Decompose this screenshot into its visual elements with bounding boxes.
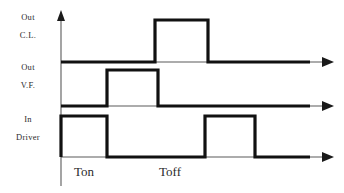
signal-traces xyxy=(61,20,310,157)
signal-label-in-driver-line2: Driver xyxy=(16,132,40,142)
signal-label-out-vf-line2: V.F. xyxy=(21,80,36,90)
time-label-ton: Ton xyxy=(74,164,95,179)
time-axis-arrow-icon-in-driver xyxy=(322,152,334,162)
signal-label-in-driver-line1: In xyxy=(24,114,32,124)
timing-diagram: Out C.L. Out V.F. In Driver Ton Toff xyxy=(0,0,344,193)
signal-trace-out-cl xyxy=(61,20,310,62)
signal-label-out-vf-line1: Out xyxy=(21,62,35,72)
signal-trace-in-driver xyxy=(61,116,310,157)
time-axis-arrow-icon-out-cl xyxy=(322,57,334,67)
signal-label-out-cl-line2: C.L. xyxy=(20,30,36,40)
signal-trace-out-vf xyxy=(61,70,310,106)
time-label-toff: Toff xyxy=(159,164,182,179)
time-axis-arrow-icon-out-vf xyxy=(322,101,334,111)
vertical-axis xyxy=(57,10,65,186)
timing-diagram-canvas: Out C.L. Out V.F. In Driver Ton Toff xyxy=(0,0,344,193)
vertical-axis-arrow-icon xyxy=(57,10,65,21)
signal-labels: Out C.L. Out V.F. In Driver xyxy=(16,12,40,142)
signal-label-out-cl-line1: Out xyxy=(21,12,35,22)
time-interval-labels: Ton Toff xyxy=(74,164,182,179)
